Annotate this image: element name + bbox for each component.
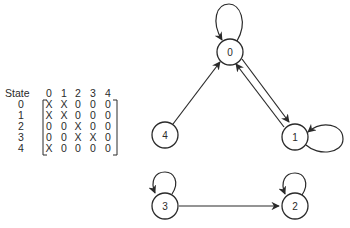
edge-3-to-3-self-loop	[153, 172, 176, 194]
row-state-label: 4	[18, 142, 24, 154]
edge-0-to-0-self-loop	[216, 4, 242, 41]
node-label: 4	[162, 130, 168, 141]
node-label: 1	[292, 132, 298, 143]
state-transition-figure: State 0 1 2 3 4 0 X X 0 0 0 1 X X 0 0 0	[0, 0, 350, 228]
reachability-matrix: State 0 1 2 3 4 0 X X 0 0 0 1 X X 0 0 0	[5, 87, 117, 155]
graph-node-1: 1	[282, 124, 308, 150]
graph-node-3: 3	[152, 193, 178, 219]
edge-1-to-0	[236, 64, 284, 127]
matrix-right-bracket	[113, 100, 117, 155]
edge-0-to-1	[242, 59, 289, 122]
matrix-row: 4 X 0 0 0 0	[18, 142, 111, 154]
node-label: 0	[227, 47, 233, 58]
matrix-cell: 0	[105, 142, 111, 154]
graph-node-2: 2	[282, 193, 308, 219]
graph-node-0: 0	[217, 39, 243, 65]
node-label: 2	[292, 201, 298, 212]
matrix-cell: 0	[75, 142, 81, 154]
graph-node-4: 4	[152, 122, 178, 148]
matrix-cell: 0	[61, 142, 67, 154]
matrix-cell: X	[45, 142, 52, 154]
edge-4-to-0	[173, 62, 220, 124]
edge-2-to-2-self-loop	[283, 173, 306, 195]
node-label: 3	[162, 201, 168, 212]
state-graph: 0 1 2 3 4	[152, 4, 343, 219]
matrix-cell: 0	[90, 142, 96, 154]
edge-1-to-1-self-loop	[306, 125, 343, 152]
